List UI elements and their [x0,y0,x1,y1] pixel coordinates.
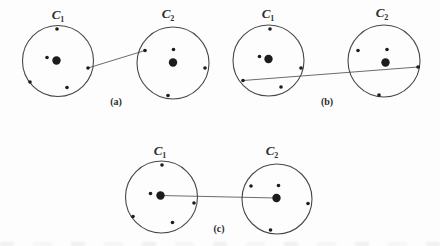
point-dot [171,221,175,225]
panel-b: C1C2 [233,5,420,97]
point-dot [249,184,253,188]
cluster-label-a-c2: C2 [162,6,175,23]
cluster-label-b-c1: C1 [262,6,275,23]
point-dot [268,27,272,31]
distance-line-b [243,67,418,81]
panel-a: C1C2 [23,6,210,99]
point-dot [28,80,32,84]
point-dot [385,48,389,52]
distance-line-c [161,196,277,199]
centroid-dot [52,56,60,64]
point-dot [131,215,135,219]
point-dot [149,192,153,196]
centroid-dot [156,191,164,199]
panel-label-a: (a) [110,96,122,107]
cutoff-text-artifact [0,242,440,246]
point-dot [166,94,170,98]
panel-label-b: (b) [321,96,333,107]
figure-canvas: C1C2C1C2C1C2 [0,0,440,246]
point-dot [172,48,176,52]
point-dot [416,65,420,69]
point-dot [203,66,207,70]
point-dot [377,93,381,97]
point-dot [269,228,273,232]
centroid-dot [169,58,177,66]
panel-label-c: (c) [213,223,224,234]
point-dot [192,201,196,205]
centroid-dot [381,58,389,66]
point-dot [143,49,147,53]
point-dot [306,202,310,206]
point-dot [241,79,245,83]
panel-c: C1C2 [126,143,313,234]
point-dot [279,85,283,89]
point-dot [258,55,262,59]
cluster-label-a-c1: C1 [52,7,65,24]
point-dot [277,184,281,188]
point-dot [160,163,164,167]
cluster-label-b-c2: C2 [376,5,389,22]
point-dot [356,49,360,53]
cluster-label-c-c2: C2 [266,143,279,160]
cluster-label-c-c1: C1 [154,143,167,160]
point-dot [299,66,303,70]
centroid-dot [264,55,272,63]
point-dot [45,56,49,60]
point-dot [86,66,90,70]
cluster-distance-figure: C1C2C1C2C1C2 (a) (b) (c) [0,0,440,246]
centroid-dot [272,194,280,202]
point-dot [65,86,69,90]
point-dot [55,27,59,31]
distance-line-a [88,51,145,69]
